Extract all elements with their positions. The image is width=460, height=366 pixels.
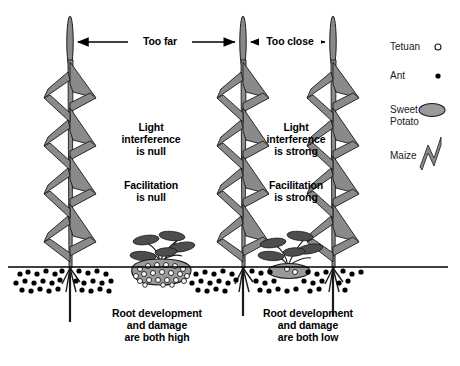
diagram-canvas [0,0,460,366]
sp-leaf [287,230,314,242]
ant-icon [435,73,440,78]
maize-plant-right [307,60,359,268]
maize-icon [420,137,441,170]
sp-leaf [159,230,186,242]
legend-label-maize: Maize [390,150,417,162]
legend-label-sweet-potato: Sweet Potato [390,104,419,127]
label-light-interference-right: Light interference is strong [253,122,339,157]
sweet-potato-left [130,230,196,287]
label-facilitation-left: Facilitation is null [108,180,194,204]
label-facilitation-right: Facilitation is strong [253,180,339,204]
legend-symbols [419,44,445,170]
sp-leaf [258,251,285,262]
label-light-interference-left: Light interference is null [108,122,194,157]
intercropping-diagram: Too far Too close Light interference is … [0,0,460,366]
label-too-far: Too far [128,36,192,48]
maize-plant-left [44,60,96,268]
legend-label-tetuan: Tetuan [390,41,420,53]
label-bottom-right: Root development and damage are both low [243,308,373,343]
sp-leaf [283,247,306,257]
sp-leaf [132,234,159,247]
tetuan-icon [435,44,441,50]
maize-plant-mid [217,60,269,268]
sweet-potato-icon [419,104,445,117]
root-left [62,268,80,322]
label-too-close: Too close [259,36,321,48]
label-bottom-left: Root development and damage are both hig… [92,308,222,343]
legend-label-ant: Ant [390,70,405,82]
